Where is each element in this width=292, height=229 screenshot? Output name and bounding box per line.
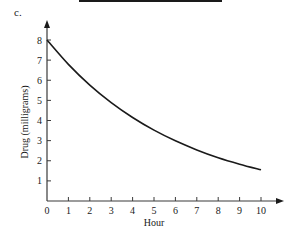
x-tick-label: 10 bbox=[256, 205, 266, 216]
y-tick-label: 7 bbox=[37, 55, 42, 66]
x-tick-label: 0 bbox=[45, 205, 50, 216]
y-tick-label: 8 bbox=[37, 35, 42, 46]
x-tick-label: 5 bbox=[152, 205, 157, 216]
y-tick-label: 6 bbox=[37, 75, 42, 86]
series-line bbox=[47, 40, 261, 170]
x-tick-label: 2 bbox=[87, 205, 92, 216]
x-tick-label: 4 bbox=[130, 205, 135, 216]
y-tick-label: 1 bbox=[37, 175, 42, 186]
y-tick-label: 3 bbox=[37, 135, 42, 146]
x-tick-label: 7 bbox=[194, 205, 199, 216]
x-tick-label: 9 bbox=[237, 205, 242, 216]
y-ticks: 12345678 bbox=[37, 35, 51, 187]
x-tick-label: 6 bbox=[173, 205, 178, 216]
series-group bbox=[47, 40, 261, 170]
x-tick-label: 3 bbox=[109, 205, 114, 216]
x-tick-label: 8 bbox=[216, 205, 221, 216]
y-axis-label: Drug (milligrams) bbox=[19, 85, 31, 158]
y-axis-arrow-icon bbox=[44, 20, 50, 28]
chart: 012345678910 12345678 Hour Drug (milligr… bbox=[0, 0, 292, 229]
y-tick-label: 4 bbox=[37, 115, 42, 126]
y-tick-label: 5 bbox=[37, 95, 42, 106]
x-axis-label: Hour bbox=[144, 217, 165, 228]
axes bbox=[44, 20, 284, 204]
x-axis-arrow-icon bbox=[276, 198, 284, 204]
x-tick-label: 1 bbox=[66, 205, 71, 216]
x-ticks: 012345678910 bbox=[45, 197, 267, 216]
y-tick-label: 2 bbox=[37, 155, 42, 166]
